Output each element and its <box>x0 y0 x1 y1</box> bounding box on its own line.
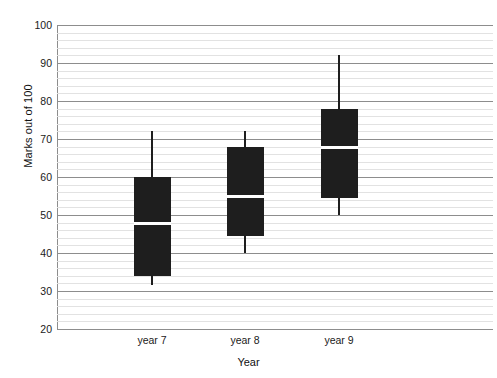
gridline-major <box>57 329 493 330</box>
y-axis-tick-label: 70 <box>18 134 52 145</box>
y-axis-tick-label: 30 <box>18 286 52 297</box>
plot-area <box>57 25 493 329</box>
median-line <box>321 146 358 149</box>
whisker-upper <box>338 55 340 108</box>
y-axis-tick-label: 20 <box>18 324 52 335</box>
x-axis-tick-label-2: year 9 <box>294 334 384 346</box>
y-axis-tick-label: 50 <box>18 210 52 221</box>
boxplot-year-9 <box>57 25 493 329</box>
whisker-lower <box>338 198 340 215</box>
x-axis-title: Year <box>0 356 497 368</box>
y-axis-tick-label: 90 <box>18 58 52 69</box>
y-axis-tick-labels: 1009080706050403020 <box>18 0 52 378</box>
y-axis-tick-label: 100 <box>18 20 52 31</box>
x-axis-tick-label-0: year 7 <box>107 334 197 346</box>
y-axis-tick-label: 40 <box>18 248 52 259</box>
x-axis-tick-label-1: year 8 <box>200 334 290 346</box>
boxplot-chart: Marks out of 100 1009080706050403020 yea… <box>0 0 497 378</box>
y-axis-tick-label: 60 <box>18 172 52 183</box>
box-iqr <box>321 109 358 198</box>
y-axis-tick-label: 80 <box>18 96 52 107</box>
